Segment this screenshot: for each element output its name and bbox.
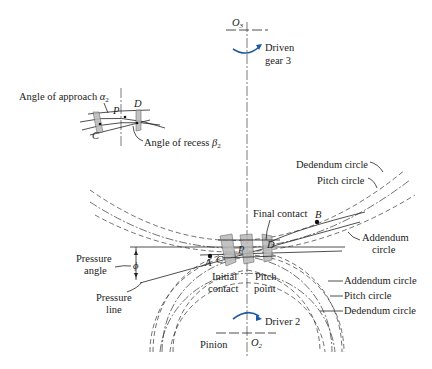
label-point-a: A [204,257,212,268]
label-pressure-line-2: line [106,304,122,315]
label-initial-2: contact [208,283,238,294]
label-gear3-addendum-1: Addendum [362,232,409,243]
label-pressure-angle-2: angle [84,265,107,276]
label-angle-recess: Angle of recess β2 [144,137,221,150]
label-gear3-pitch: Pitch circle [317,175,365,186]
label-pressure-angle-1: Pressure [76,253,112,264]
label-gear3-dedendum: Dedendum circle [296,159,368,170]
gear2-arcs-fit [153,252,342,352]
point-b-dot [315,220,319,224]
label-final-contact: Final contact [253,208,308,219]
label-pressure-line-1: Pressure [96,292,132,303]
label-inset-d: D [133,98,142,109]
label-driver-2: Driver 2 [265,316,300,327]
label-o2: O2 [251,337,263,350]
label-driven-2: gear 3 [265,55,291,66]
label-driven-1: Driven [265,42,295,53]
label-gear2-dedendum: Dedendum circle [344,305,416,316]
label-pitch-point-1: Pitch [255,271,277,282]
label-point-d: D [266,239,275,250]
label-point-b: B [315,209,322,220]
label-phi: ϕ [133,260,139,271]
label-point-c: C [216,254,224,265]
label-pitch-point-2: point [254,283,276,294]
label-angle-approach: Angle of approach α2 [19,91,109,104]
gear-action-diagram: O3 Driven gear 3 Angle of approach α2 P … [0,0,432,369]
label-gear3-addendum-2: circle [372,244,396,255]
label-inset-p: P [112,105,120,116]
label-o3: O3 [232,17,244,30]
gear2-addendum-circle [170,283,325,352]
label-initial-1: Initial [212,271,237,282]
label-point-p: P [237,244,245,255]
label-gear2-pitch: Pitch circle [344,290,392,301]
driven-rotation-arrow [233,47,259,53]
driver-rotation-arrow [233,313,259,319]
gear3-addendum-circle [95,195,415,252]
label-pinion: Pinion [200,339,228,350]
label-inset-c: C [92,130,100,141]
label-gear2-addendum: Addendum circle [344,275,417,286]
